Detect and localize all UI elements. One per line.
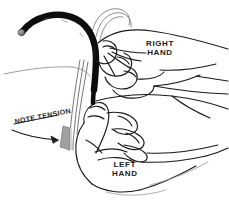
label-right-hand-line2: HAND [147, 48, 173, 57]
label-left-hand-line2: HAND [112, 169, 138, 178]
illustration-canvas: RIGHTHAND LEFTHAND NOTE TENSION [0, 0, 229, 220]
label-right-hand: RIGHTHAND [146, 39, 174, 58]
tube-tip-highlight [18, 29, 25, 35]
label-left-hand: LEFTHAND [112, 160, 138, 179]
line-drawing-figure [0, 0, 229, 220]
label-left-hand-line1: LEFT [114, 160, 136, 169]
label-right-hand-line1: RIGHT [146, 39, 174, 48]
